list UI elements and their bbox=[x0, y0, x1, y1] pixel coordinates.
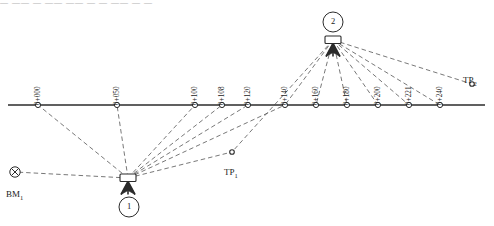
turning-point-label-2: TP2 bbox=[463, 76, 477, 87]
station-label-0-000: 0+000 bbox=[34, 86, 41, 105]
station-label-0-140: 0+140 bbox=[281, 86, 288, 105]
instrument-number-2: 2 bbox=[323, 17, 343, 26]
station-label-0-180: 0+180 bbox=[343, 86, 350, 105]
station-label-0-100: 0+100 bbox=[191, 86, 198, 105]
instrument-symbol-group bbox=[119, 12, 343, 217]
diagram-canvas bbox=[0, 0, 494, 226]
station-label-0-221: 0+221 bbox=[405, 86, 412, 105]
station-label-0-050: 0+050 bbox=[113, 86, 120, 105]
sightline-group-station-1 bbox=[15, 105, 285, 178]
station-label-0-160: 0+160 bbox=[312, 86, 319, 105]
instrument-number-1: 1 bbox=[119, 202, 139, 211]
station-label-0-200: 0+200 bbox=[374, 86, 381, 105]
station-label-0-120: 0+120 bbox=[244, 86, 251, 105]
benchmark-label-1: BM1 bbox=[6, 190, 23, 201]
turning-point-label-1: TP1 bbox=[224, 168, 238, 179]
survey-traverse-diagram: — —— — —— —— — — —— — — 0+0000+0500+1000… bbox=[0, 0, 494, 226]
station-label-0-240: 0+240 bbox=[436, 86, 443, 105]
station-label-0-108: 0+108 bbox=[218, 86, 225, 105]
